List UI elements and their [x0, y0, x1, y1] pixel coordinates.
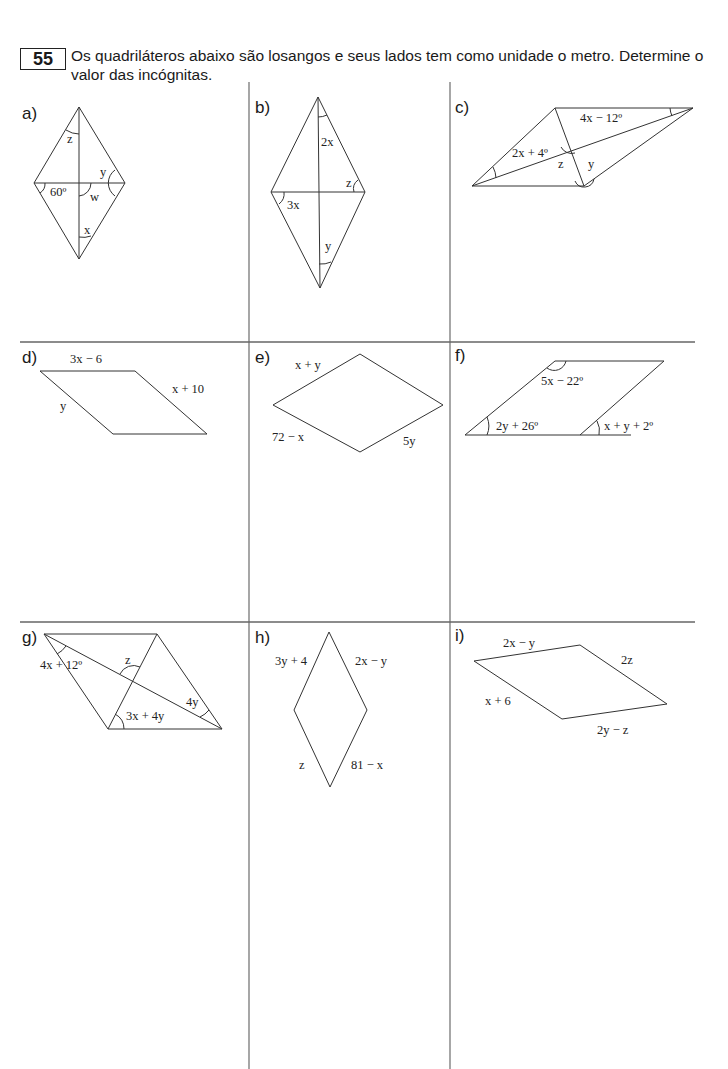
f-top-angle: 5x − 22º [541, 374, 583, 388]
c-top-right-angle: 4x − 12º [580, 111, 622, 125]
figure-a-rhombus [34, 107, 125, 259]
i-bottom-side: 2y − z [597, 723, 629, 737]
b-left-angle: 3x [287, 198, 300, 212]
h-top-right-side: 2x − y [355, 654, 388, 668]
a-top-angle: z [67, 132, 73, 146]
e-bottom-left-side: 72 − x [272, 430, 305, 444]
b-top-angle: 2x [321, 135, 334, 149]
b-right-angle: z [346, 176, 352, 190]
e-bottom-right-side: 5y [403, 434, 416, 448]
f-exterior-angle: x + y + 2º [604, 419, 653, 433]
figure-b-rhombus [271, 97, 365, 288]
e-top-left-side: x + y [295, 358, 322, 372]
c-center-angle: z [558, 157, 564, 171]
h-bottom-right-side: 81 − x [351, 758, 384, 772]
h-top-left-side: 3y + 4 [275, 654, 308, 668]
g-bottom-angle: 3x + 4y [126, 709, 165, 723]
i-top-side: 2x − y [503, 636, 536, 650]
d-left-side: y [60, 399, 67, 413]
a-right-angle: y [100, 165, 107, 179]
figures: z 60º w y x 2x z 3x y 4x − 12º 2x + 4º z… [0, 0, 728, 1069]
i-right-side: 2z [621, 653, 633, 667]
a-center-angle: w [90, 190, 99, 204]
a-left-angle: 60º [50, 185, 67, 199]
d-right-side: x + 10 [172, 382, 204, 396]
g-center-angle: z [125, 653, 131, 667]
g-top-left-angle: 4x + 12º [40, 658, 82, 672]
c-bottom-angle: y [588, 157, 595, 171]
c-left-angle: 2x + 4º [512, 146, 548, 160]
i-left-side: x + 6 [485, 694, 511, 708]
h-bottom-left-side: z [299, 758, 305, 772]
f-left-angle: 2y + 26º [496, 419, 538, 433]
a-bottom-angle: x [84, 223, 91, 237]
d-top-side: 3x − 6 [70, 352, 102, 366]
g-right-angle: 4y [186, 695, 199, 709]
b-bottom-angle: y [325, 239, 332, 253]
